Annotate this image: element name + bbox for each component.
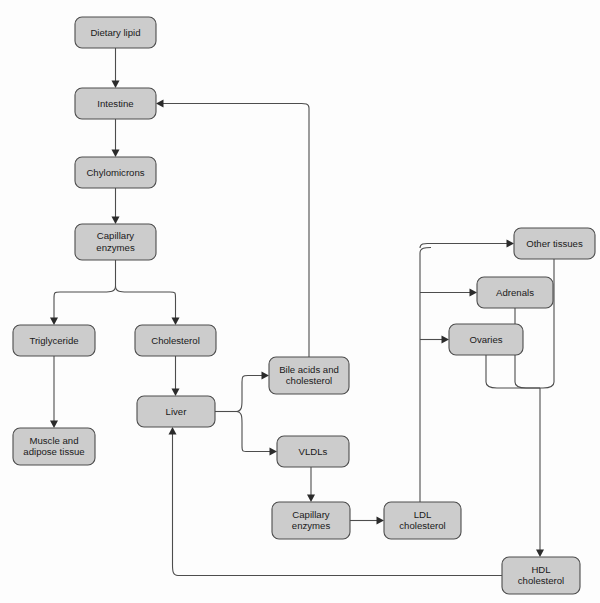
- arrowhead-vldls-to-capillary-bottom: [307, 495, 315, 503]
- edge-ldl-to-other-tissues: [420, 243, 510, 248]
- arrowhead-capillary-bottom-to-ldl: [377, 517, 385, 525]
- node-liver[interactable]: Liver: [137, 396, 215, 427]
- node-box-ovaries: [449, 324, 523, 355]
- node-box-muscle_adipose: [13, 428, 95, 465]
- arrowhead-capillary-to-triglyceride: [50, 318, 58, 326]
- node-box-cholesterol: [135, 325, 216, 356]
- arrowhead-bile-acids-to-intestine: [156, 100, 164, 108]
- node-capillary_enzymes_top[interactable]: Capillaryenzymes: [75, 224, 156, 260]
- node-box-dietary_lipid: [75, 17, 156, 48]
- node-box-other_tissues: [514, 228, 595, 259]
- edge-ovaries-to-merge: [486, 355, 540, 388]
- arrowhead-merge-to-hdl: [536, 550, 544, 558]
- node-box-ldl_cholesterol: [384, 502, 461, 539]
- arrowhead-dietary-to-intestine: [112, 81, 120, 89]
- flowchart-canvas: Dietary lipidIntestineChylomicronsCapill…: [0, 0, 600, 603]
- edge-capillary-to-cholesterol: [116, 286, 176, 321]
- node-other_tissues[interactable]: Other tissues: [514, 228, 595, 259]
- edge-liver-to-bile-acids: [236, 376, 265, 412]
- node-box-triglyceride: [13, 325, 95, 356]
- node-box-bile_acids: [269, 357, 349, 394]
- flowchart-diagram: Dietary lipidIntestineChylomicronsCapill…: [0, 0, 600, 603]
- arrowhead-liver-to-vldls: [270, 448, 278, 456]
- arrowhead-ldl-to-adrenals: [470, 289, 478, 297]
- node-chylomicrons[interactable]: Chylomicrons: [75, 157, 156, 188]
- node-triglyceride[interactable]: Triglyceride: [13, 325, 95, 356]
- arrowhead-chylomicrons-to-capillary: [112, 217, 120, 225]
- arrowhead-capillary-to-cholesterol: [172, 318, 180, 326]
- node-box-adrenals: [477, 277, 553, 308]
- node-dietary_lipid[interactable]: Dietary lipid: [75, 17, 156, 48]
- node-adrenals[interactable]: Adrenals: [477, 277, 553, 308]
- arrowhead-ldl-to-other-tissues: [507, 240, 515, 248]
- node-hdl_cholesterol[interactable]: HDLcholesterol: [502, 557, 580, 594]
- edge-capillary-to-triglyceride: [54, 286, 116, 321]
- node-box-intestine: [75, 88, 156, 119]
- edge-bile-acids-to-intestine: [160, 103, 309, 357]
- node-bile_acids[interactable]: Bile acids andcholesterol: [269, 357, 349, 394]
- arrowhead-hdl-to-liver: [169, 427, 177, 435]
- node-cholesterol[interactable]: Cholesterol: [135, 325, 216, 356]
- node-box-liver: [137, 396, 215, 427]
- edges-layer: [50, 48, 554, 576]
- node-muscle_adipose[interactable]: Muscle andadipose tissue: [13, 428, 95, 465]
- edge-liver-to-vldls: [236, 412, 273, 452]
- edge-ldl-trunk-up: [420, 248, 431, 503]
- arrowhead-cholesterol-to-liver: [172, 389, 180, 397]
- node-box-chylomicrons: [75, 157, 156, 188]
- node-ldl_cholesterol[interactable]: LDLcholesterol: [384, 502, 461, 539]
- arrowhead-liver-to-bile-acids: [262, 372, 270, 380]
- node-vldls[interactable]: VLDLs: [277, 436, 349, 467]
- node-box-capillary_enzymes_top: [75, 224, 156, 260]
- node-intestine[interactable]: Intestine: [75, 88, 156, 119]
- node-capillary_enzymes_bottom[interactable]: Capillaryenzymes: [272, 502, 350, 539]
- arrowhead-triglyceride-to-muscle: [50, 421, 58, 429]
- node-box-vldls: [277, 436, 349, 467]
- arrowhead-intestine-to-chylomicrons: [112, 150, 120, 158]
- node-box-capillary_enzymes_bottom: [272, 502, 350, 539]
- node-ovaries[interactable]: Ovaries: [449, 324, 523, 355]
- node-box-hdl_cholesterol: [502, 557, 580, 594]
- arrowhead-ldl-to-ovaries: [442, 336, 450, 344]
